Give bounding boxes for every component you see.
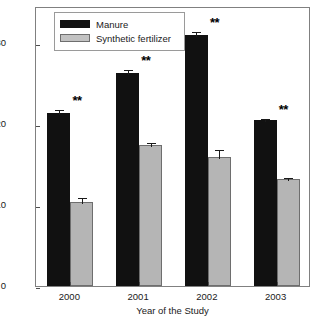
bar-synthetic-fertilizer-2000 [70,202,93,286]
legend-swatch-manure-icon [60,20,90,28]
error-bar-cap-manure-2003 [261,119,270,120]
bar-synthetic-fertilizer-2001 [139,145,162,286]
error-bar-synthetic-fertilizer-2002 [219,150,220,159]
bar-manure-2001 [116,73,139,286]
x-tick-label-2003: 2003 [246,291,306,302]
bar-chart-figure: Concentration (ppm dry weight) 0 10 20 3… [0,0,322,324]
bar-manure-2003 [254,120,277,286]
y-tick-label-20: 20 [0,119,6,129]
error-bar-cap-manure-2002 [192,32,201,33]
plot-area: ******** Manure Synthetic fertilizer [35,7,310,287]
x-tick-mark-2003 [277,282,278,286]
significance-marker-2002: ** [210,16,219,29]
y-tick-label-10: 10 [0,200,6,210]
error-bar-cap-synthetic-fertilizer-2000 [78,198,87,199]
bar-synthetic-fertilizer-2002 [208,157,231,286]
error-bar-cap-synthetic-fertilizer-2001 [147,143,156,144]
y-tick-label-30: 30 [0,38,6,48]
x-tick-mark-2000 [70,282,71,286]
legend-item-manure: Manure [60,17,179,31]
x-axis-title: Year of the Study [35,305,310,316]
chart-legend: Manure Synthetic fertilizer [54,12,185,51]
y-tick-mark-10 [36,207,40,208]
x-tick-mark-2001 [139,282,140,286]
x-tick-label-2000: 2000 [39,291,99,302]
x-tick-label-2002: 2002 [177,291,237,302]
error-bar-cap-manure-2001 [124,70,133,71]
legend-item-synthetic-fertilizer: Synthetic fertilizer [60,31,179,45]
significance-marker-2001: ** [141,54,150,67]
bar-manure-2000 [47,113,70,286]
error-bar-cap-synthetic-fertilizer-2003 [284,178,293,179]
bar-manure-2002 [185,35,208,286]
y-tick-mark-0 [36,288,40,289]
error-bar-cap-synthetic-fertilizer-2002 [215,150,224,151]
y-tick-mark-30 [36,45,40,46]
bar-synthetic-fertilizer-2003 [277,179,300,286]
significance-marker-2000: ** [72,94,81,107]
x-tick-label-2001: 2001 [108,291,168,302]
legend-label-manure: Manure [96,19,128,30]
y-tick-mark-20 [36,126,40,127]
legend-label-synthetic-fertilizer: Synthetic fertilizer [96,33,171,44]
x-tick-mark-2002 [208,282,209,286]
legend-swatch-synthetic-icon [60,34,90,42]
significance-marker-2003: ** [279,103,288,116]
y-tick-label-0: 0 [0,281,6,291]
error-bar-cap-manure-2000 [55,110,64,111]
